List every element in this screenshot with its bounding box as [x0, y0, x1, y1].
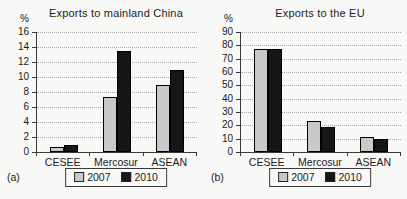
chart-panel-b: Exports to the EU % 20072010 (b) 0102030…	[204, 0, 407, 199]
bar-2007-asean	[360, 137, 374, 152]
bar-2007-mercosur	[307, 121, 321, 152]
plot-area	[240, 32, 401, 153]
y-tick-label: 0	[204, 147, 233, 157]
chart-title: Exports to the EU	[240, 7, 400, 19]
y-tick-mark	[32, 92, 36, 93]
y-tick-label: 2	[0, 132, 29, 142]
x-category-label: ASEAN	[143, 156, 196, 168]
y-tick-mark	[236, 139, 240, 140]
y-tick-label: 40	[204, 94, 233, 104]
x-category-label: Mercosur	[293, 156, 346, 168]
x-category-label: CESEE	[240, 156, 293, 168]
bar-2010-mercosur	[321, 127, 335, 152]
bar-2010-asean	[374, 139, 388, 152]
legend-label-2010: 2010	[339, 171, 362, 183]
x-tick-mark	[240, 153, 241, 156]
y-tick-mark	[236, 32, 240, 33]
legend-item-2010: 2010	[326, 171, 362, 183]
x-tick-mark	[36, 153, 37, 156]
y-tick-mark	[236, 85, 240, 86]
x-tick-mark	[143, 153, 144, 156]
bar-2007-cesee	[254, 49, 268, 152]
bar-2007-mercosur	[103, 97, 117, 153]
y-tick-label: 30	[204, 107, 233, 117]
y-tick-mark	[32, 77, 36, 78]
y-tick-label: 6	[0, 102, 29, 112]
legend: 20072010	[65, 168, 167, 187]
y-tick-mark	[32, 122, 36, 123]
x-tick-mark	[196, 153, 197, 156]
y-tick-mark	[32, 62, 36, 63]
y-tick-label: 50	[204, 80, 233, 90]
y-tick-mark	[236, 45, 240, 46]
y-tick-label: 10	[0, 72, 29, 82]
bar-2010-cesee	[64, 145, 78, 153]
y-tick-mark	[236, 112, 240, 113]
legend-label-2007: 2007	[291, 171, 314, 183]
x-tick-mark	[400, 153, 401, 156]
y-tick-label: 0	[0, 147, 29, 157]
bar-2007-asean	[156, 85, 170, 153]
x-tick-mark	[293, 153, 294, 156]
y-tick-label: 12	[0, 57, 29, 67]
gridline	[241, 32, 401, 33]
y-tick-label: 80	[204, 40, 233, 50]
y-tick-label: 16	[0, 27, 29, 37]
y-tick-label: 90	[204, 27, 233, 37]
legend-swatch-2007	[74, 172, 84, 182]
y-tick-mark	[32, 47, 36, 48]
y-axis-unit-label: %	[204, 13, 233, 24]
x-category-label: CESEE	[36, 156, 89, 168]
y-tick-mark	[32, 107, 36, 108]
figure: Exports to mainland China % 20072010 (a)…	[0, 0, 407, 199]
legend-swatch-2007	[278, 172, 288, 182]
y-tick-mark	[236, 59, 240, 60]
panel-label: (a)	[7, 171, 20, 183]
bar-2010-cesee	[268, 49, 282, 152]
y-tick-label: 70	[204, 54, 233, 64]
y-tick-mark	[236, 72, 240, 73]
y-tick-mark	[236, 99, 240, 100]
legend-item-2007: 2007	[74, 171, 110, 183]
y-tick-label: 60	[204, 67, 233, 77]
legend-label-2010: 2010	[135, 171, 158, 183]
bar-2010-asean	[170, 70, 184, 153]
legend-swatch-2010	[326, 172, 336, 182]
y-tick-label: 20	[204, 120, 233, 130]
chart-panel-a: Exports to mainland China % 20072010 (a)…	[0, 0, 203, 199]
x-tick-mark	[347, 153, 348, 156]
y-tick-label: 14	[0, 42, 29, 52]
gridline	[37, 47, 197, 48]
x-category-label: ASEAN	[347, 156, 400, 168]
legend-item-2010: 2010	[122, 171, 158, 183]
y-tick-mark	[32, 32, 36, 33]
x-tick-mark	[89, 153, 90, 156]
panel-label: (b)	[211, 171, 224, 183]
legend: 20072010	[269, 168, 371, 187]
y-tick-label: 4	[0, 117, 29, 127]
bar-2007-cesee	[50, 147, 64, 152]
chart-title: Exports to mainland China	[36, 7, 196, 19]
legend-label-2007: 2007	[87, 171, 110, 183]
plot-area	[36, 32, 197, 153]
y-tick-mark	[236, 125, 240, 126]
gridline	[241, 45, 401, 46]
y-axis-unit-label: %	[0, 13, 29, 24]
x-category-label: Mercosur	[89, 156, 142, 168]
legend-swatch-2010	[122, 172, 132, 182]
y-tick-label: 10	[204, 134, 233, 144]
y-tick-label: 8	[0, 87, 29, 97]
legend-item-2007: 2007	[278, 171, 314, 183]
gridline	[37, 32, 197, 33]
y-tick-mark	[32, 137, 36, 138]
bar-2010-mercosur	[117, 51, 131, 152]
